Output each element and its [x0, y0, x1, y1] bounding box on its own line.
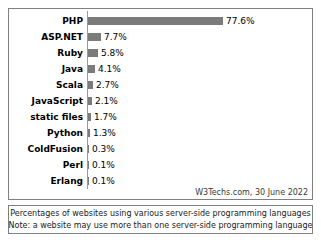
bar-track: 0.3%	[87, 141, 312, 157]
bar-row: Ruby5.8%	[9, 45, 312, 61]
bar-track: 1.7%	[87, 109, 312, 125]
bar-row: ASP.NET7.7%	[9, 29, 312, 45]
bar-row: Python1.3%	[9, 125, 312, 141]
footnote-line-2: Note: a website may use more than one se…	[9, 220, 313, 232]
bar-row: static files1.7%	[9, 109, 312, 125]
bar-value-label: 2.1%	[92, 93, 118, 109]
category-label: Python	[9, 125, 87, 141]
category-label: Java	[9, 61, 87, 77]
source-attribution: W3Techs.com, 30 June 2022	[195, 188, 308, 197]
bar-row: Erlang0.1%	[9, 173, 312, 189]
bar-value-label: 0.1%	[89, 157, 115, 173]
bar-track: 5.8%	[87, 45, 312, 61]
bar-track: 0.1%	[87, 157, 312, 173]
bar-track: 7.7%	[87, 29, 312, 45]
category-label: JavaScript	[9, 93, 87, 109]
plot-area: PHP77.6%ASP.NET7.7%Ruby5.8%Java4.1%Scala…	[9, 9, 312, 199]
bar-value-label: 1.3%	[90, 125, 116, 141]
footnote-panel: Percentages of websites using various se…	[8, 205, 313, 234]
bar	[88, 17, 223, 25]
bar-row: Scala2.7%	[9, 77, 312, 93]
category-label: Scala	[9, 77, 87, 93]
bar	[88, 65, 95, 73]
bar	[88, 33, 101, 41]
bar-row: Java4.1%	[9, 61, 312, 77]
bar-row: JavaScript2.1%	[9, 93, 312, 109]
bar-value-label: 1.7%	[91, 109, 117, 125]
bar-rows: PHP77.6%ASP.NET7.7%Ruby5.8%Java4.1%Scala…	[9, 13, 312, 189]
bar-track: 1.3%	[87, 125, 312, 141]
category-label: Perl	[9, 157, 87, 173]
footnote-line-1: Percentages of websites using various se…	[10, 208, 311, 220]
bar-row: Perl0.1%	[9, 157, 312, 173]
bar-value-label: 2.7%	[93, 77, 119, 93]
bar-track: 2.7%	[87, 77, 312, 93]
bar-value-label: 5.8%	[98, 45, 124, 61]
category-label: ASP.NET	[9, 29, 87, 45]
bar-track: 2.1%	[87, 93, 312, 109]
bar	[88, 49, 98, 57]
bar-track: 0.1%	[87, 173, 312, 189]
chart-panel: PHP77.6%ASP.NET7.7%Ruby5.8%Java4.1%Scala…	[8, 8, 313, 200]
bar-value-label: 7.7%	[101, 29, 127, 45]
bar-value-label: 77.6%	[223, 13, 255, 29]
bar-row: PHP77.6%	[9, 13, 312, 29]
category-label: PHP	[9, 13, 87, 29]
category-label: Ruby	[9, 45, 87, 61]
bar-track: 77.6%	[87, 13, 312, 29]
bar-track: 4.1%	[87, 61, 312, 77]
category-label: static files	[9, 109, 87, 125]
chart-screenshot: PHP77.6%ASP.NET7.7%Ruby5.8%Java4.1%Scala…	[0, 0, 321, 242]
bar-value-label: 0.3%	[89, 141, 115, 157]
bar-row: ColdFusion0.3%	[9, 141, 312, 157]
bar-value-label: 0.1%	[89, 173, 115, 189]
category-label: Erlang	[9, 173, 87, 189]
bar-value-label: 4.1%	[95, 61, 121, 77]
category-label: ColdFusion	[9, 141, 87, 157]
